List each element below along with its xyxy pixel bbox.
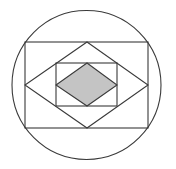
nested-shapes-diagram [0,0,176,169]
